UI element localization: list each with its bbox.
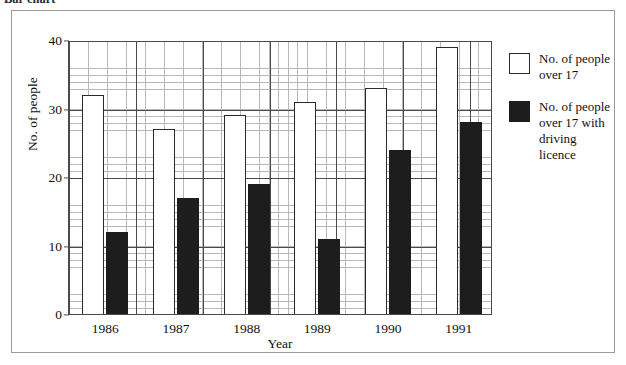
x-axis-tick-label: 1991 — [445, 321, 472, 337]
figure-caption-text: Bar chart — [4, 0, 56, 7]
x-axis-tick-label: 1990 — [375, 321, 402, 337]
y-axis-tick-mark — [64, 40, 69, 41]
plot-area: 010203040 198619871988198919901991 — [68, 41, 492, 315]
y-axis-tick-label: 10 — [49, 239, 63, 255]
legend-entry-2: No. of people over 17 with driving licen… — [509, 101, 613, 163]
bar-1988-series1 — [224, 115, 246, 314]
y-axis-tick-mark — [64, 177, 69, 178]
chart-legend: No. of people over 17No. of people over … — [509, 53, 613, 181]
legend-swatch-light — [509, 53, 530, 74]
y-axis-tick-label: 40 — [49, 33, 63, 49]
bar-1990-series2 — [389, 150, 411, 314]
y-axis-title: No. of people — [25, 77, 41, 151]
bar-1989-series2 — [318, 239, 340, 314]
y-axis-tick-mark — [64, 314, 69, 315]
legend-label: No. of people over 17 with driving licen… — [539, 99, 613, 163]
y-axis-tick-mark — [64, 109, 69, 110]
bar-1991-series1 — [436, 47, 458, 314]
figure-frame: No. of people Year 010203040 19861987198… — [11, 10, 615, 353]
bar-1986-series2 — [106, 232, 128, 314]
bar-1988-series2 — [248, 184, 270, 314]
y-axis-tick-label: 20 — [49, 170, 63, 186]
bar-1989-series1 — [294, 102, 316, 314]
y-axis-tick-label: 30 — [49, 102, 63, 118]
x-axis-tick-label: 1986 — [92, 321, 119, 337]
legend-swatch-dark — [509, 101, 530, 122]
plot-right-border — [491, 41, 492, 314]
bar-1991-series2 — [460, 122, 482, 314]
legend-entry-1: No. of people over 17 — [509, 53, 613, 83]
figure-caption: Bar chart — [0, 0, 626, 9]
bar-1986-series1 — [82, 95, 104, 314]
x-axis-title: Year — [268, 336, 293, 352]
legend-label: No. of people over 17 — [539, 51, 613, 83]
x-axis-tick-label: 1987 — [163, 321, 190, 337]
x-axis-tick-label: 1988 — [233, 321, 260, 337]
minor-gridlines — [69, 41, 492, 314]
y-axis-tick-label: 0 — [55, 307, 62, 323]
y-axis-tick-mark — [64, 246, 69, 247]
x-axis-tick-label: 1989 — [304, 321, 331, 337]
bar-1987-series1 — [153, 129, 175, 314]
bar-1990-series1 — [365, 88, 387, 314]
major-gridlines — [69, 41, 492, 314]
bar-1987-series2 — [177, 198, 199, 314]
plot-top-border — [69, 41, 492, 42]
